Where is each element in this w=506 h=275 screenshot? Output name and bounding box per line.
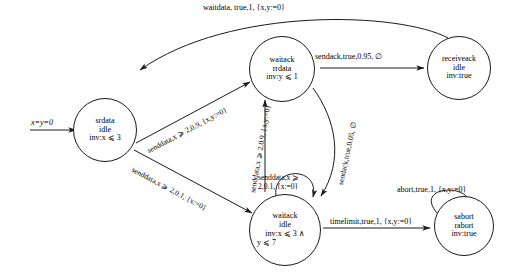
label-senddata-self: senddata,x ⩾ 2,0.1, {x:=0} — [258, 174, 318, 191]
state-receiveack[interactable]: receiveack idle inv:true — [427, 36, 491, 100]
label-senddata-self-line2: 2,0.1, {x:=0} — [258, 182, 298, 191]
state-sabort[interactable]: sabort rabort inv:true — [434, 196, 494, 256]
label-timelimit: timelimit,true,1, {x,y:=0} — [330, 218, 412, 227]
state-waitack-rrdata-line3: inv:y ⩽ 1 — [266, 73, 297, 82]
label-waitdata: waitdata, true,1, {x,y:=0} — [203, 4, 285, 13]
edge-senddata-09-top — [136, 82, 250, 143]
state-waitack-idle-line4: y ⩽ 7 — [257, 239, 276, 248]
label-abort-self: abort,true,1, {x,y:=0} — [397, 186, 466, 195]
label-sendack-095: sendack,true,0.95, ∅ — [315, 53, 382, 62]
label-initial: x=y=0 — [31, 118, 53, 127]
automaton-diagram: srdata idle inv:x ⩽ 3 waitack rrdata inv… — [0, 0, 506, 275]
state-sabort-line3: inv:true — [452, 230, 477, 239]
state-receiveack-line3: inv:true — [447, 72, 472, 81]
state-srdata[interactable]: srdata idle inv:x ⩽ 3 — [73, 98, 137, 162]
state-waitack-rrdata[interactable]: waitack rrdata inv:y ⩽ 1 — [249, 36, 315, 102]
state-srdata-line3: inv:x ⩽ 3 — [89, 134, 120, 143]
state-waitack-idle[interactable]: waitack idle inv:x ⩽ 3 ∧ y ⩽ 7 — [249, 194, 321, 266]
